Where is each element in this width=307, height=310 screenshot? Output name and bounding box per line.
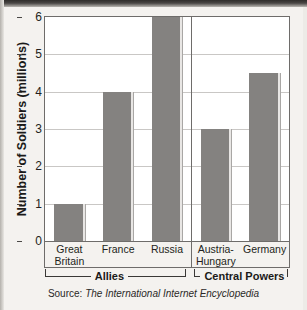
scan-edge-band	[0, 0, 307, 7]
bracket-line-right	[128, 276, 186, 277]
x-label-line1: Russia	[143, 244, 192, 256]
x-axis-label-band: GreatBritainFranceRussiaAustria-HungaryG…	[44, 242, 290, 268]
source-note: Source: The International Internet Encyc…	[0, 288, 307, 299]
y-axis-tick-label: 2	[22, 159, 42, 173]
bar-edge	[85, 204, 86, 241]
plot-area	[44, 16, 290, 242]
bar-edge	[280, 73, 281, 241]
bracket-tick-left	[45, 269, 46, 277]
x-axis-category-label: France	[94, 244, 143, 256]
bar-edge	[231, 129, 232, 241]
x-axis-category-label: GreatBritain	[45, 244, 94, 267]
group-brackets: AlliesCentral Powers	[44, 268, 290, 284]
bar-edge	[182, 17, 183, 241]
bar-chart: Number of Soldiers (millions) 0123456	[44, 16, 290, 242]
bracket-label: Allies	[91, 270, 128, 282]
group-divider	[191, 17, 192, 241]
bracket-tick-right	[287, 269, 288, 277]
y-axis-tick-mark	[17, 54, 22, 55]
x-axis-category-label: Austria-Hungary	[191, 244, 240, 267]
x-label-line1: Germany	[240, 244, 289, 256]
bracket-line-left	[45, 276, 91, 277]
y-axis-tick-label: 3	[22, 122, 42, 136]
y-axis-tick-mark	[17, 17, 22, 18]
y-axis-tick-label: 1	[22, 197, 42, 211]
bar	[201, 129, 231, 241]
bar	[152, 17, 182, 241]
x-axis-category-label: Germany	[240, 244, 289, 256]
bracket-central-powers: Central Powers	[194, 268, 288, 284]
source-prefix: Source:	[48, 288, 82, 299]
y-axis-tick-mark	[17, 129, 22, 130]
y-axis-tick-mark	[17, 241, 22, 242]
bar	[249, 73, 279, 241]
source-title: The International Internet Encyclopedia	[85, 288, 259, 299]
x-label-line1: France	[94, 244, 143, 256]
y-axis-tick-label: 5	[22, 47, 42, 61]
scan-left-edge	[0, 0, 4, 310]
scanned-page: Number of Soldiers (millions) 0123456 Gr…	[0, 0, 307, 310]
bracket-tick-left	[194, 269, 195, 277]
x-axis-category-label: Russia	[143, 244, 192, 256]
y-axis-tick-label: 6	[22, 10, 42, 24]
x-label-line2: Britain	[45, 256, 94, 268]
x-label-line1: Austria-	[191, 244, 240, 256]
bar	[54, 204, 84, 241]
x-label-line1: Great	[45, 244, 94, 256]
bracket-allies: Allies	[45, 268, 186, 284]
y-axis-tick-mark	[17, 92, 22, 93]
y-axis-tick-mark	[17, 166, 22, 167]
bar	[103, 92, 133, 241]
x-label-line2: Hungary	[191, 256, 240, 268]
bracket-label: Central Powers	[200, 270, 288, 282]
y-axis-tick-label: 4	[22, 85, 42, 99]
y-axis-tick-label: 0	[22, 234, 42, 248]
y-axis-tick-mark	[17, 204, 22, 205]
bracket-tick-right	[185, 269, 186, 277]
bar-edge	[133, 92, 134, 241]
